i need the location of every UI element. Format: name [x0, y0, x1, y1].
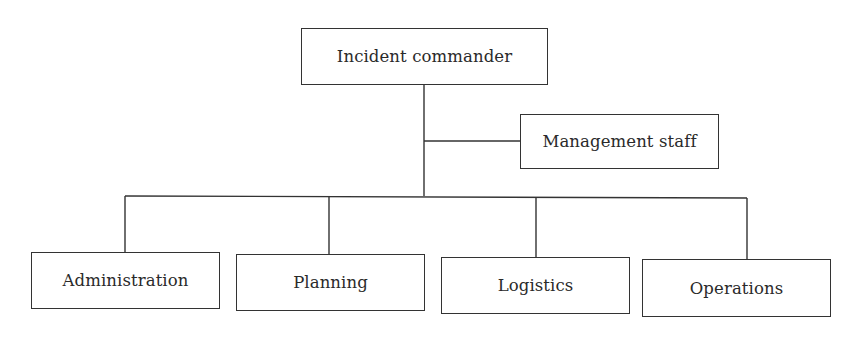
bus-line: [125, 196, 747, 198]
node-label: Logistics: [498, 276, 574, 295]
node-operations: Operations: [642, 259, 831, 317]
node-incident-commander: Incident commander: [301, 28, 548, 85]
node-logistics: Logistics: [441, 257, 630, 314]
node-label: Planning: [293, 273, 368, 292]
node-label: Incident commander: [337, 47, 512, 66]
node-administration: Administration: [31, 252, 220, 309]
node-label: Operations: [690, 279, 784, 298]
node-planning: Planning: [236, 254, 425, 311]
node-management-staff: Management staff: [520, 114, 719, 169]
node-label: Management staff: [542, 132, 696, 151]
node-label: Administration: [63, 271, 189, 290]
